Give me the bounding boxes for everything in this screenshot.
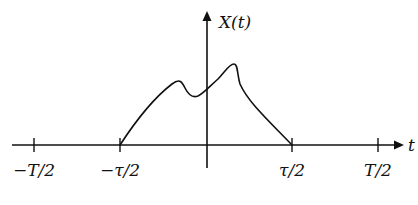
x-axis-label: t — [408, 135, 415, 155]
tick-label-neg-tau-half: −τ/2 — [100, 160, 140, 180]
tick-label-tau-half: τ/2 — [279, 160, 305, 180]
waveform-diagram: X(t) t −T/2 −τ/2 τ/2 T/2 — [0, 0, 418, 205]
x-axis-arrow-icon — [394, 141, 404, 150]
y-axis-arrow-icon — [203, 11, 212, 21]
waveform-curve — [120, 64, 292, 145]
y-axis-label: X(t) — [217, 12, 251, 32]
tick-label-neg-T-half: −T/2 — [13, 160, 55, 180]
tick-label-T-half: T/2 — [364, 160, 392, 180]
